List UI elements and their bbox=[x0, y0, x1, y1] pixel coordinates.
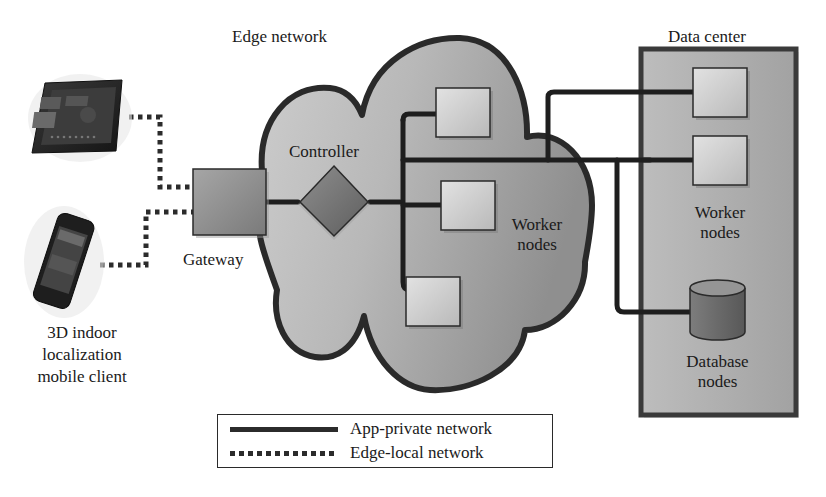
edge-worker-node-1 bbox=[436, 88, 493, 140]
edge-worker-node-2 bbox=[441, 181, 498, 233]
solid-line-swatch bbox=[230, 427, 338, 432]
mobile-client-label: 3D indoor localization mobile client bbox=[22, 322, 142, 388]
gateway-node bbox=[193, 169, 269, 238]
legend-item-edge-local: Edge-local network bbox=[230, 442, 484, 464]
edge-worker-nodes-label: Worker nodes bbox=[502, 215, 572, 255]
legend-item-app-private: App-private network bbox=[230, 418, 492, 440]
gateway-label: Gateway bbox=[183, 250, 243, 270]
legend: App-private network Edge-local network bbox=[217, 414, 553, 468]
dotted-line-swatch bbox=[230, 451, 338, 456]
edge-network-title: Edge network bbox=[232, 27, 327, 47]
dc-worker-node-1 bbox=[693, 68, 750, 120]
controller-label: Controller bbox=[289, 142, 359, 162]
tablet-device-icon bbox=[28, 74, 132, 162]
data-center-title: Data center bbox=[668, 27, 746, 47]
database-nodes-label: Database nodes bbox=[675, 352, 760, 392]
dc-worker-nodes-label: Worker nodes bbox=[685, 203, 755, 243]
database-cylinder-icon bbox=[690, 280, 745, 340]
edge-worker-node-3 bbox=[406, 277, 463, 329]
smartphone-device-icon bbox=[24, 206, 104, 318]
dc-worker-node-2 bbox=[693, 136, 750, 188]
